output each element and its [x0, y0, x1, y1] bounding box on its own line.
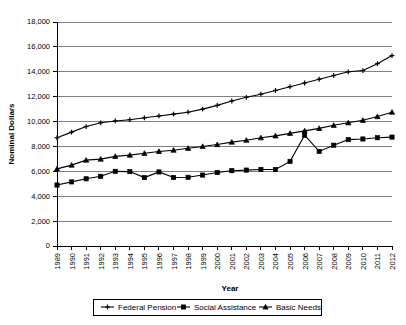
data-point-marker — [288, 84, 293, 89]
data-point-marker — [55, 135, 60, 140]
x-tick-label: 2001 — [228, 253, 237, 270]
legend-label: Basic Needs — [276, 303, 321, 312]
y-tick-label: 10,000 — [27, 117, 50, 126]
series-line — [57, 135, 392, 185]
legend: Federal PensionSocial AssistanceBasic Ne… — [93, 299, 321, 315]
data-point-marker — [273, 167, 277, 171]
gridlines — [57, 22, 392, 246]
x-tick-label: 1999 — [199, 253, 208, 270]
data-point-marker — [181, 305, 185, 309]
data-point-marker — [230, 169, 234, 173]
x-tick-label: 2006 — [301, 253, 310, 270]
data-point-marker — [229, 99, 234, 104]
data-point-marker — [390, 53, 395, 58]
series-line — [57, 112, 392, 169]
x-tick-label: 2005 — [286, 253, 295, 270]
data-point-marker — [303, 133, 307, 137]
legend-label: Social Assistance — [194, 303, 257, 312]
series-1 — [55, 133, 394, 187]
data-point-marker — [142, 115, 147, 120]
x-tick-label: 2010 — [359, 253, 368, 270]
data-point-marker — [259, 167, 263, 171]
data-point-marker — [215, 170, 219, 174]
y-tick-label: 18,000 — [27, 17, 50, 26]
data-point-marker — [215, 103, 220, 108]
y-tick-label: 0 — [46, 241, 50, 250]
x-tick-label: 1996 — [155, 253, 164, 270]
x-tick-label: 2012 — [388, 253, 397, 270]
data-point-marker — [186, 110, 191, 115]
y-tick-label: 8,000 — [31, 142, 50, 151]
x-tick-label: 1993 — [111, 253, 120, 270]
x-tick-label: 2003 — [257, 253, 266, 270]
line-chart: 18,00016,00014,00012,00010,0008,0006,000… — [0, 0, 406, 325]
data-point-marker — [113, 119, 118, 124]
x-tick-label: 2004 — [271, 253, 280, 270]
data-point-marker — [201, 173, 205, 177]
data-point-marker — [317, 77, 322, 82]
y-tick-label: 2,000 — [31, 217, 50, 226]
data-point-marker — [157, 170, 161, 174]
data-point-marker — [331, 73, 336, 78]
x-tick-label: 1991 — [82, 253, 91, 270]
data-point-marker — [186, 175, 190, 179]
data-point-marker — [244, 168, 248, 172]
data-point-marker — [69, 180, 73, 184]
data-point-marker — [273, 88, 278, 93]
data-point-marker — [84, 124, 89, 129]
data-point-marker — [346, 69, 351, 74]
data-point-marker — [84, 177, 88, 181]
x-tick-label: 2007 — [315, 253, 324, 270]
y-tick-label: 12,000 — [27, 92, 50, 101]
x-axis-title: Year — [222, 284, 239, 293]
data-point-marker — [390, 135, 394, 139]
data-point-marker — [259, 92, 264, 97]
series-2 — [54, 110, 394, 171]
x-tick-label: 2000 — [213, 253, 222, 270]
data-point-marker — [99, 174, 103, 178]
data-point-marker — [142, 175, 146, 179]
chart-svg: 18,00016,00014,00012,00010,0008,0006,000… — [0, 0, 406, 325]
y-axis — [53, 22, 57, 246]
y-tick-label: 14,000 — [27, 67, 50, 76]
y-tick-label: 6,000 — [31, 167, 50, 176]
y-tick-label: 16,000 — [27, 42, 50, 51]
y-tick-labels: 18,00016,00014,00012,00010,0008,0006,000… — [27, 17, 50, 250]
data-point-marker — [171, 112, 176, 117]
data-point-marker — [375, 61, 380, 66]
data-point-marker — [375, 136, 379, 140]
data-point-marker — [171, 175, 175, 179]
x-axis — [57, 246, 392, 250]
x-tick-label: 2009 — [344, 253, 353, 270]
data-point-marker — [69, 130, 74, 135]
x-tick-label: 1992 — [97, 253, 106, 270]
data-point-marker — [113, 169, 117, 173]
x-tick-label: 1990 — [68, 253, 77, 270]
x-tick-label: 1994 — [126, 253, 135, 270]
data-point-marker — [288, 159, 292, 163]
data-point-marker — [332, 143, 336, 147]
data-point-marker — [317, 149, 321, 153]
data-point-marker — [346, 138, 350, 142]
x-tick-label: 1998 — [184, 253, 193, 270]
x-tick-label: 1997 — [170, 253, 179, 270]
x-tick-label: 1989 — [53, 253, 62, 270]
x-tick-label: 2008 — [330, 253, 339, 270]
data-point-marker — [244, 95, 249, 100]
series-lines — [54, 53, 394, 187]
data-point-marker — [200, 107, 205, 112]
x-tick-label: 2011 — [373, 253, 382, 269]
data-point-marker — [55, 183, 59, 187]
data-point-marker — [361, 137, 365, 141]
y-tick-label: 4,000 — [31, 192, 50, 201]
x-tick-label: 1995 — [140, 253, 149, 270]
data-point-marker — [157, 114, 162, 119]
data-point-marker — [302, 81, 307, 86]
x-tick-labels: 1989199019911992199319941995199619971998… — [53, 253, 397, 270]
y-axis-title: Nominal Dollars — [7, 103, 16, 164]
data-point-marker — [128, 169, 132, 173]
x-tick-label: 2002 — [242, 253, 251, 270]
legend-label: Federal Pension — [118, 303, 176, 312]
data-point-marker — [389, 110, 394, 115]
